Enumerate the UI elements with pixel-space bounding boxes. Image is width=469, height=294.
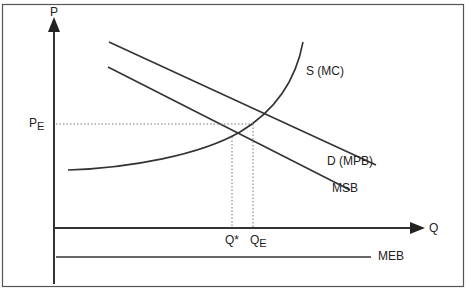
q-equilibrium-label: QE — [250, 234, 267, 246]
quantity-axis-arrow-icon — [410, 222, 425, 234]
pe-sub: E — [37, 120, 44, 132]
demand-mpb-label: D (MPB) — [327, 155, 373, 167]
quantity-axis-label: Q — [429, 222, 438, 234]
price-axis-label: P — [50, 6, 58, 18]
msb-label: MSB — [332, 182, 358, 194]
q-optimal-label: Q* — [225, 234, 239, 246]
price-axis-arrow-icon — [48, 17, 60, 32]
supply-mc-label: S (MC) — [306, 65, 344, 77]
price-equilibrium-label: PE — [29, 117, 44, 129]
pe-main: P — [29, 116, 37, 130]
msb-curve — [108, 67, 350, 190]
qe-sub: E — [259, 237, 266, 249]
demand-mpb-curve — [109, 42, 376, 165]
meb-label: MEB — [378, 250, 404, 262]
qe-main: Q — [250, 233, 259, 247]
